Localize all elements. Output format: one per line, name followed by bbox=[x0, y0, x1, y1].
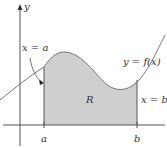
y-axis-arrow-icon bbox=[18, 4, 23, 10]
region-label: R bbox=[86, 95, 94, 105]
area-under-curve-diagram bbox=[0, 0, 167, 148]
x-equals-a-pointer bbox=[30, 58, 42, 82]
pointer-arrowhead-icon bbox=[39, 80, 44, 85]
y-axis-label: y bbox=[24, 2, 30, 12]
tick-label-a: a bbox=[41, 134, 47, 144]
x-equals-b-label: x = b bbox=[141, 95, 167, 105]
tick-label-b: b bbox=[134, 134, 140, 144]
x-equals-a-label: x = a bbox=[22, 43, 48, 53]
curve-label: y = f(x) bbox=[123, 57, 161, 67]
